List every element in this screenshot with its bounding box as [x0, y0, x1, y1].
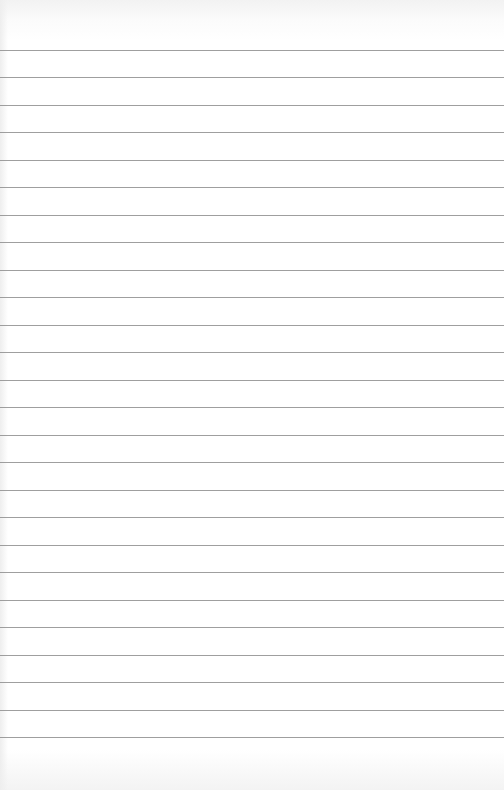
ruled-line — [0, 682, 504, 683]
ruled-line — [0, 242, 504, 243]
ruled-line — [0, 105, 504, 106]
ruled-line — [0, 710, 504, 711]
ruled-line — [0, 270, 504, 271]
ruled-line — [0, 572, 504, 573]
ruled-line — [0, 132, 504, 133]
paper-edge-shadow — [0, 0, 8, 790]
ruled-line — [0, 737, 504, 738]
ruled-line — [0, 77, 504, 78]
ruled-line — [0, 545, 504, 546]
ruled-line — [0, 600, 504, 601]
ruled-line — [0, 215, 504, 216]
ruled-line — [0, 517, 504, 518]
ruled-line — [0, 655, 504, 656]
ruled-line — [0, 627, 504, 628]
ruled-line — [0, 297, 504, 298]
ruled-line — [0, 160, 504, 161]
ruled-line — [0, 435, 504, 436]
ruled-line — [0, 462, 504, 463]
lined-paper — [0, 0, 504, 790]
ruled-line — [0, 325, 504, 326]
ruled-line — [0, 352, 504, 353]
ruled-line — [0, 407, 504, 408]
ruled-line — [0, 490, 504, 491]
ruled-line — [0, 380, 504, 381]
ruled-line — [0, 50, 504, 51]
ruled-line — [0, 187, 504, 188]
